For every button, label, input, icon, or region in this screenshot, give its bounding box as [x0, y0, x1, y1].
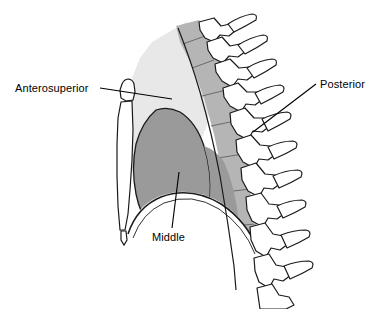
label-posterior: Posterior [320, 78, 365, 90]
mediastinum-diagram [0, 0, 379, 309]
label-anterosuperior: Anterosuperior [15, 82, 89, 94]
label-middle: Middle [152, 231, 185, 243]
manubrium [120, 79, 135, 101]
sternum-body [117, 101, 133, 230]
anatomical-figure: Anterosuperior Posterior Middle [0, 0, 379, 309]
xiphoid-process [121, 231, 127, 245]
